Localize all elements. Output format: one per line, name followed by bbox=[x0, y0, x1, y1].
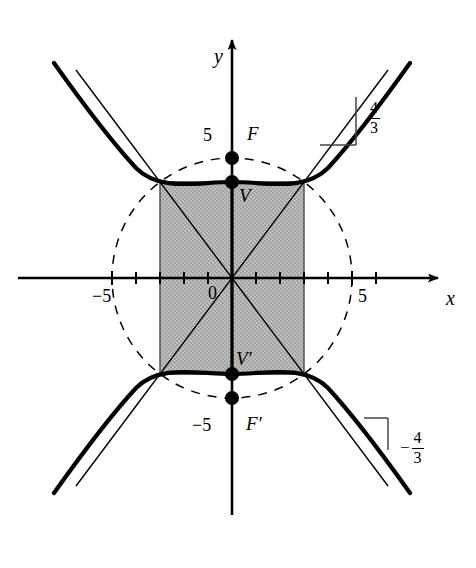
slope-lower-sign: − bbox=[400, 438, 410, 458]
vertex-label-V-prime: V′ bbox=[236, 349, 252, 368]
slope-upper-denominator: 3 bbox=[368, 119, 380, 137]
y-tick-label-negative-5: −5 bbox=[192, 416, 211, 434]
focus-point-F bbox=[225, 151, 239, 165]
y-tick-label-positive-5: 5 bbox=[203, 126, 212, 144]
focus-label-F: F bbox=[247, 124, 259, 143]
vertex-point-V-prime bbox=[225, 367, 239, 381]
slope-upper-numerator: 4 bbox=[368, 100, 380, 118]
x-tick-label-negative-5: −5 bbox=[92, 287, 111, 305]
slope-label-lower: − 4 3 bbox=[400, 430, 424, 467]
x-tick-label-positive-5: 5 bbox=[358, 287, 367, 305]
vertex-point-V bbox=[225, 175, 239, 189]
slope-lower-fraction: 4 3 bbox=[412, 430, 424, 467]
focus-point-F-prime bbox=[225, 391, 239, 405]
slope-lower-numerator: 4 bbox=[412, 430, 424, 448]
slope-label-upper: 4 3 bbox=[366, 100, 380, 137]
y-axis-label: y bbox=[214, 46, 223, 66]
slope-lower-denominator: 3 bbox=[412, 449, 424, 467]
vertex-label-V: V bbox=[239, 186, 251, 205]
slope-upper-fraction: 4 3 bbox=[368, 100, 380, 137]
hyperbola-figure: y x 0 −5 5 5 −5 F V V′ F′ 4 3 − 4 3 bbox=[0, 0, 476, 568]
x-axis-label: x bbox=[446, 288, 455, 308]
origin-label: 0 bbox=[208, 284, 217, 302]
focus-label-F-prime: F′ bbox=[246, 414, 262, 433]
hyperbola-graphic bbox=[0, 0, 476, 568]
